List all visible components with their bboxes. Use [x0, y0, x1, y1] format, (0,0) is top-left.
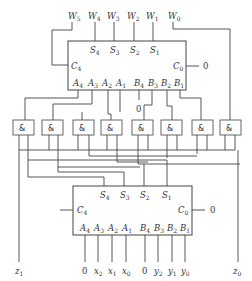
input-wires	[85, 235, 185, 262]
top-adder: S4 S3 S2 S1 C4 C0 0 A4 A3 A2 A1 B4 B3 B2…	[68, 41, 208, 90]
bottom-adder-c0-value: 0	[210, 205, 215, 215]
bottom-adder: S4 S3 S2 S1 C4 C0 0 A4 A3 A2 A1 B4 B3 B2…	[60, 186, 215, 235]
top-adder-to-gate-wires: 0	[25, 90, 230, 120]
wire-s3	[58, 167, 124, 186]
output-label-w4: W4	[88, 11, 101, 22]
input-y2: y2	[153, 266, 163, 277]
output-label-z1: z1	[14, 266, 23, 277]
output-label-z0: z0	[232, 266, 241, 277]
output-label-w2: W2	[127, 11, 140, 22]
input-x2: x2	[94, 266, 103, 277]
input-x1: x1	[108, 266, 117, 277]
input-b4: 0	[142, 266, 147, 276]
output-label-w1: W1	[146, 11, 159, 22]
top-adder-c0-value: 0	[203, 61, 208, 71]
output-label-w3: W3	[107, 11, 120, 22]
output-label-w0: W0	[168, 11, 181, 22]
and-gate-symbol: &	[138, 124, 144, 133]
wire-gate4-in	[108, 112, 111, 120]
and-gate-symbol: &	[226, 124, 232, 133]
top-output-labels: W5 W4 W3 W2 W1 W0	[68, 11, 181, 22]
input-labels: 0 x2 x1 x0 0 y2 y1 y0	[82, 266, 190, 277]
and-gate-symbol: &	[198, 124, 204, 133]
and-gate-symbol: &	[48, 124, 54, 133]
wire-b3	[144, 90, 152, 120]
and-gate-symbol: &	[107, 124, 113, 133]
output-label-w5: W5	[68, 11, 81, 22]
and-gates: & & & & & & & &	[13, 120, 241, 135]
and-gate-symbol: &	[19, 124, 25, 133]
input-a4: 0	[82, 266, 87, 276]
and-gate-symbol: &	[167, 124, 173, 133]
wire-b2	[167, 90, 172, 120]
wire-s4	[28, 160, 104, 186]
circuit-diagram: W5 W4 W3 W2 W1 W0 S4 S3 S2 S1 C4 C0 0 A4…	[0, 0, 252, 281]
input-x0: x0	[122, 266, 131, 277]
wire-a4	[25, 90, 78, 120]
b4-constant: 0	[136, 104, 141, 114]
wire-a3	[53, 90, 92, 120]
input-y0: y0	[180, 266, 190, 277]
and-gate-symbol: &	[79, 124, 85, 133]
wire-b1	[180, 90, 201, 120]
input-y1: y1	[167, 266, 177, 277]
gate-bus-wires	[19, 135, 240, 167]
